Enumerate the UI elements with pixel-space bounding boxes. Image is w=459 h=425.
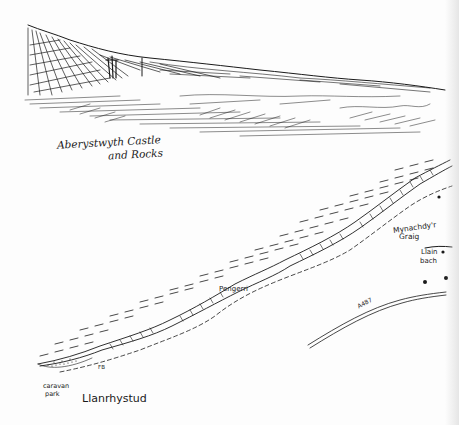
map-label-park: park — [45, 391, 60, 398]
map-label-bach: bach — [420, 258, 437, 265]
map-label-footbridge: FB — [98, 365, 105, 371]
map-label-graig: Graig — [399, 233, 419, 241]
book-page: Aberystwyth Castle and Rocks Mynachdy'r … — [0, 0, 459, 425]
sketch-caption-line2: and Rocks — [108, 148, 163, 161]
castle-sketch-illustration — [0, 0, 459, 425]
map-label-llain: Llain — [421, 249, 438, 256]
map-label-llanrhystud: Llanrhystud — [82, 393, 147, 404]
map-label-caravan: caravan — [43, 383, 69, 390]
page-edge-shadow — [445, 0, 459, 425]
map-label-pengerri: Pengerri — [219, 286, 248, 293]
